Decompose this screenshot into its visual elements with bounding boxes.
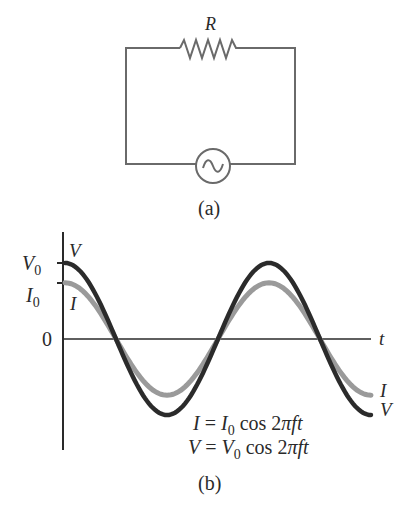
zero-label: 0: [42, 328, 52, 350]
resistor-icon: [180, 40, 240, 58]
equation-current: I = I0 cos 2πft: [192, 412, 303, 438]
caption-b: (b): [198, 472, 221, 495]
figure: R (a) V0 I0 0 V I t I V I = I0 cos 2πft …: [0, 0, 417, 523]
i-end-label: I: [379, 380, 388, 401]
i0-label: I0: [25, 284, 40, 310]
v0-label: V0: [22, 252, 41, 278]
i-start-label: I: [69, 293, 78, 314]
wire: [230, 48, 295, 164]
caption-a: (a): [198, 197, 220, 220]
v-start-label: V: [69, 240, 83, 261]
wire: [126, 48, 196, 164]
equation-voltage: V = V0 cos 2πft: [188, 436, 309, 462]
t-axis-label: t: [379, 328, 385, 349]
circuit-diagram: [126, 40, 295, 183]
sine-wave-icon: [203, 160, 223, 172]
v-end-label: V: [380, 399, 394, 420]
resistor-label: R: [204, 14, 216, 34]
